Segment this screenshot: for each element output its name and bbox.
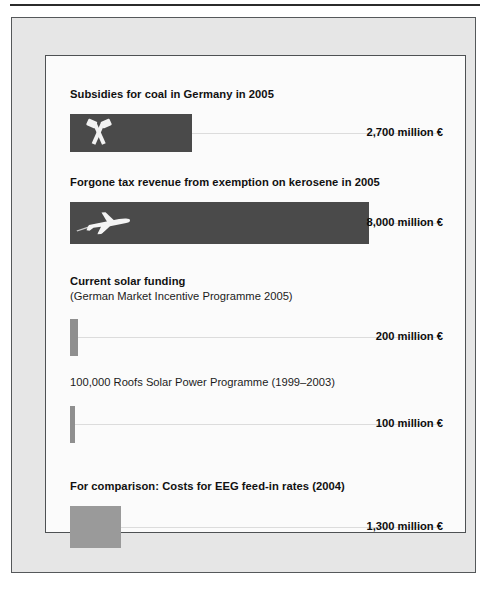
bar-row: 1,300 million € [46,506,465,548]
item-title: Current solar funding [70,275,185,287]
bar-solar-funding [70,319,78,356]
value-label: 200 million € [376,330,443,342]
item-title: Forgone tax revenue from exemption on ke… [70,176,380,188]
bar-chart: Subsidies for coal in Germany in 2005 [46,56,465,532]
value-label: 8,000 million € [367,216,443,228]
page-top-rule [10,4,480,6]
bar-row: 2,700 million € [46,114,465,152]
value-label: 2,700 million € [367,126,443,138]
bar-eeg-feedin [70,506,121,548]
item-subtitle: 100,000 Roofs Solar Power Programme (199… [70,376,335,388]
figure-inner-panel: Subsidies for coal in Germany in 2005 [45,55,466,533]
crossed-hammers-icon [82,118,116,148]
bar-coal-subsidies [70,114,192,152]
bar-row: 200 million € [46,319,465,356]
value-label: 100 million € [376,417,443,429]
bar-row: 8,000 million € [46,202,465,244]
item-title: For comparison: Costs for EEG feed-in ra… [70,480,345,492]
bar-kerosene-tax [70,202,369,244]
item-title: Subsidies for coal in Germany in 2005 [70,88,274,100]
figure-outer-panel: Subsidies for coal in Germany in 2005 [11,17,476,573]
bar-row: 100 million € [46,406,465,443]
bar-roofs-programme [70,406,75,443]
airplane-icon [76,208,140,238]
value-label: 1,300 million € [367,520,443,532]
item-subtitle: (German Market Incentive Programme 2005) [70,290,293,302]
